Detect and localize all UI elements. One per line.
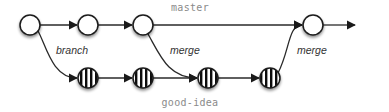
commit-node-master-1 [20, 15, 40, 35]
edge-label-merge-2: merge [297, 44, 327, 56]
commit-node-good-idea-2 [133, 68, 153, 88]
edge-label-merge-1: merge [170, 44, 200, 56]
edge-label-branch: branch [56, 44, 88, 56]
commit-node-master-3 [133, 15, 153, 35]
git-branch-merge-diagram: master good-idea branch merge merge [0, 0, 389, 112]
edge-merge-m3-g3 [148, 34, 197, 78]
branch-label-good-idea: good-idea [162, 97, 219, 108]
commit-node-master-merge [303, 15, 323, 35]
commit-node-master-2 [78, 15, 98, 35]
commit-node-good-idea-3 [198, 68, 218, 88]
commit-node-good-idea-4 [260, 68, 280, 88]
commit-node-good-idea-1 [78, 68, 98, 88]
branch-label-master: master [171, 2, 209, 13]
